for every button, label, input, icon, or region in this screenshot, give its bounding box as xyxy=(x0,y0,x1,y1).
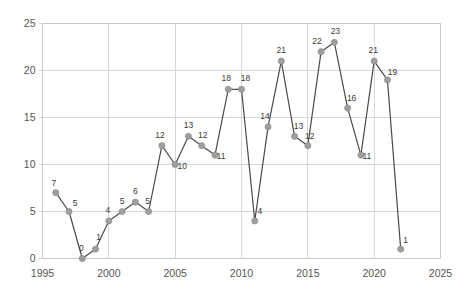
data-point-label: 13 xyxy=(294,121,304,131)
data-point-marker[interactable] xyxy=(79,255,85,261)
data-point-label: 23 xyxy=(331,26,341,36)
gridlines xyxy=(43,24,441,259)
y-tick-label: 20 xyxy=(24,64,36,76)
data-point-label: 4 xyxy=(105,205,110,215)
data-point-label: 22 xyxy=(312,36,322,46)
data-point-marker[interactable] xyxy=(119,208,125,214)
line-chart: 0510152025 1995200020052010201520202025 … xyxy=(0,0,469,292)
data-point-label: 11 xyxy=(362,151,371,161)
chart-canvas: 0510152025 1995200020052010201520202025 … xyxy=(0,0,469,292)
y-axis-tick-labels: 0510152025 xyxy=(24,17,43,264)
data-point-marker[interactable] xyxy=(305,143,311,149)
data-point-label: 18 xyxy=(241,73,251,83)
data-point-label: 1 xyxy=(96,232,101,242)
data-point-marker[interactable] xyxy=(106,218,112,224)
data-point-label: 19 xyxy=(388,67,398,77)
data-point-label: 21 xyxy=(277,45,287,55)
data-point-label: 0 xyxy=(79,243,84,253)
data-point-label: 7 xyxy=(51,178,56,188)
data-point-label: 11 xyxy=(217,151,226,161)
data-point-marker[interactable] xyxy=(92,246,98,252)
data-point-marker[interactable] xyxy=(252,218,258,224)
data-point-marker[interactable] xyxy=(278,58,284,64)
y-tick-label: 15 xyxy=(24,111,36,123)
x-tick-label: 2025 xyxy=(429,267,453,279)
data-point-label: 12 xyxy=(155,130,165,140)
data-point-label: 21 xyxy=(368,45,378,55)
data-point-label: 12 xyxy=(198,130,208,140)
x-tick-label: 2005 xyxy=(163,267,187,279)
x-axis-tick-labels: 1995200020052010201520202025 xyxy=(31,267,453,279)
x-tick-label: 2010 xyxy=(230,267,254,279)
x-tick-label: 2020 xyxy=(362,267,386,279)
data-point-label: 5 xyxy=(73,198,78,208)
y-tick-label: 0 xyxy=(30,252,36,264)
x-tick-label: 2000 xyxy=(97,267,121,279)
data-point-label: 1 xyxy=(403,235,408,245)
y-tick-label: 25 xyxy=(24,17,36,29)
data-point-marker[interactable] xyxy=(53,190,59,196)
data-point-label: 6 xyxy=(133,186,138,196)
data-point-label: 5 xyxy=(120,196,125,206)
data-point-label: 4 xyxy=(257,206,262,216)
data-point-marker[interactable] xyxy=(199,143,205,149)
x-tick-label: 1995 xyxy=(31,267,55,279)
data-point-marker[interactable] xyxy=(291,133,297,139)
data-point-marker[interactable] xyxy=(146,208,152,214)
data-point-label: 18 xyxy=(221,73,231,83)
data-point-marker[interactable] xyxy=(331,39,337,45)
y-tick-label: 5 xyxy=(30,205,36,217)
data-point-label: 13 xyxy=(184,120,194,130)
data-point-label: 10 xyxy=(177,161,187,171)
data-point-marker[interactable] xyxy=(265,124,271,130)
data-point-labels: 7501456512101312111818414211312222316112… xyxy=(51,26,408,252)
data-point-marker[interactable] xyxy=(132,199,138,205)
data-point-marker[interactable] xyxy=(318,49,324,55)
data-point-label: 16 xyxy=(347,93,357,103)
data-point-marker[interactable] xyxy=(159,143,165,149)
data-point-marker[interactable] xyxy=(371,58,377,64)
data-point-label: 5 xyxy=(145,196,150,206)
data-point-marker[interactable] xyxy=(66,208,72,214)
x-tick-label: 2015 xyxy=(296,267,320,279)
data-point-marker[interactable] xyxy=(185,133,191,139)
data-point-marker[interactable] xyxy=(398,246,404,252)
data-point-marker[interactable] xyxy=(238,86,244,92)
data-point-marker[interactable] xyxy=(345,105,351,111)
y-tick-label: 10 xyxy=(24,158,36,170)
data-point-label: 14 xyxy=(260,111,270,121)
data-point-label: 12 xyxy=(305,131,315,141)
data-point-marker[interactable] xyxy=(384,77,390,83)
data-point-marker[interactable] xyxy=(225,86,231,92)
